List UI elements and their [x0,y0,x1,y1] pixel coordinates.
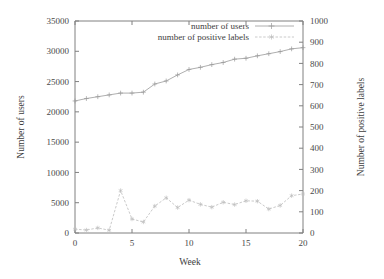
y-axis-right-ticks [299,21,303,233]
data-series-group [73,45,306,232]
x-axis-ticklabel: 0 [73,238,78,248]
y-axis-right-ticklabel: 200 [310,186,324,196]
legend-label-number-of-positive-labels: number of positive labels [158,32,250,42]
y-axis-right-label: Number of positive labels [356,77,366,176]
series-markers-number-of-positive-labels [73,188,305,232]
data-point-marker [244,199,248,203]
legend-label-number-of-users: number of users [191,21,249,31]
y-axis-right-ticklabel: 600 [310,101,324,111]
data-point-marker [164,79,169,84]
data-point-marker [198,65,203,70]
y-axis-left-ticklabel: 5000 [51,198,70,208]
data-point-marker [209,62,214,67]
y-axis-left-ticklabel: 0 [65,228,70,238]
data-point-marker [119,188,123,192]
y-axis-right-ticklabel: 900 [310,37,324,47]
x-axis-ticklabels: 05101520 [73,238,308,248]
y-axis-left-ticklabel: 15000 [47,137,70,147]
series-markers-number-of-users [73,45,306,103]
data-point-marker [187,198,191,202]
data-point-marker [95,94,100,99]
y-axis-right-ticklabel: 400 [310,143,324,153]
data-point-marker [278,49,283,54]
data-point-marker [289,46,294,51]
y-axis-left-label: Number of users [16,95,26,159]
x-axis-ticklabel: 5 [130,238,135,248]
data-point-marker [267,207,271,211]
data-point-marker [290,193,294,197]
y-axis-left-ticks [75,21,79,233]
chart-canvas: 05000100001500020000250003000035000 0100… [0,0,384,279]
y-axis-right-ticklabel: 700 [310,80,324,90]
data-point-marker [232,57,237,62]
data-point-marker [244,56,249,61]
data-point-marker [84,96,89,101]
y-axis-right-ticklabel: 800 [310,59,324,69]
y-axis-left-ticklabel: 35000 [47,16,70,26]
y-axis-right-ticklabel: 500 [310,122,324,132]
y-axis-left-ticklabel: 25000 [47,77,70,87]
data-point-marker [221,60,226,65]
y-axis-right-ticklabel: 100 [310,207,324,217]
data-point-marker [73,99,78,104]
y-axis-right-ticklabel: 300 [310,165,324,175]
data-point-marker [118,91,123,96]
x-axis-label: Week [179,257,201,267]
y-axis-left-ticklabel: 10000 [47,168,70,178]
data-point-marker [266,51,271,56]
data-point-marker [301,45,306,50]
y-axis-right-ticklabel: 1000 [310,16,329,26]
x-axis-ticklabel: 20 [299,238,309,248]
y-axis-left-ticklabel: 30000 [47,46,70,56]
y-axis-right-ticklabels: 01002003004005006007008009001000 [310,16,329,238]
y-axis-right-ticklabel: 0 [310,228,315,238]
chart-figure: 05000100001500020000250003000035000 0100… [0,0,384,279]
data-point-marker [301,192,305,196]
data-point-marker [130,91,135,96]
data-point-marker [187,67,192,72]
legend: number of users number of positive label… [158,21,294,42]
x-axis-ticklabel: 15 [242,238,252,248]
data-point-marker [175,73,180,78]
y-axis-left-ticklabels: 05000100001500020000250003000035000 [47,16,70,238]
y-axis-left-ticklabel: 20000 [47,107,70,117]
x-axis-ticklabel: 10 [185,238,195,248]
legend-marker-plus-icon [269,23,275,29]
data-point-marker [107,92,112,97]
data-point-marker [255,53,260,58]
